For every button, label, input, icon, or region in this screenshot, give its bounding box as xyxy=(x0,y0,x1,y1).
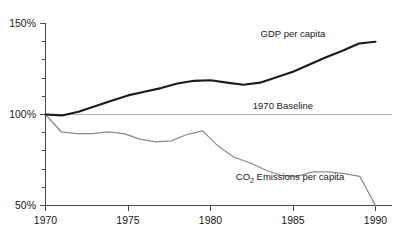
series-line-co2-emissions-per-capita xyxy=(46,115,376,206)
co2-series-label: CO2 Emissions per capita xyxy=(236,171,345,184)
x-tick-label-1975: 1975 xyxy=(116,214,140,226)
x-tick-label-1985: 1985 xyxy=(281,214,305,226)
co2-label-rest: Emissions per capita xyxy=(254,171,345,182)
y-tick-label-100: 100% xyxy=(9,108,36,120)
co2-label-main: CO xyxy=(236,171,250,182)
y-axis-major-ticks xyxy=(40,24,45,206)
baseline-label: 1970 Baseline xyxy=(253,100,313,111)
chart-container: 150% 100% 50% 1970 1975 1980 1985 1990 G… xyxy=(0,0,395,237)
gdp-series-label: GDP per capita xyxy=(261,28,326,39)
y-tick-label-150: 150% xyxy=(9,17,36,29)
x-tick-label-1980: 1980 xyxy=(199,214,223,226)
series-line-gdp-per-capita xyxy=(46,42,376,116)
x-tick-label-1970: 1970 xyxy=(34,214,58,226)
line-chart: 150% 100% 50% 1970 1975 1980 1985 1990 G… xyxy=(0,0,395,237)
x-tick-label-1990: 1990 xyxy=(364,214,388,226)
y-tick-label-50: 50% xyxy=(15,199,36,211)
